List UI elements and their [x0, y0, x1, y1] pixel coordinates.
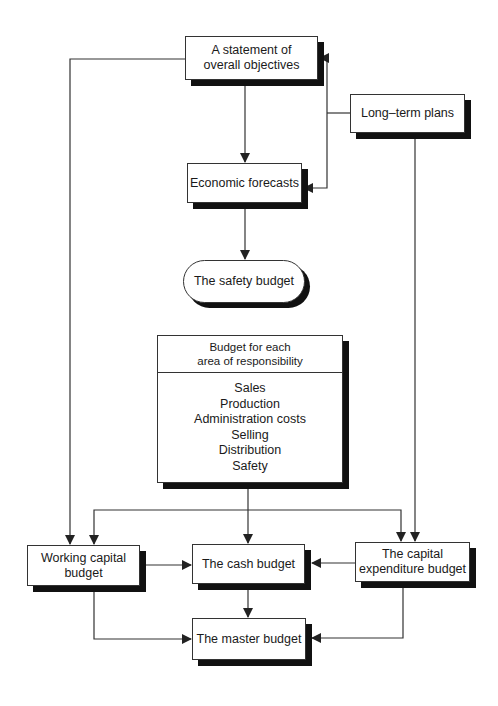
node-safety-budget: The safety budget: [183, 260, 305, 303]
list-item: Safety: [194, 459, 306, 475]
node-label: The cash budget: [202, 557, 295, 572]
edge-longterm-statement: [320, 58, 327, 113]
responsibility-list: Sales Production Administration costs Se…: [194, 373, 306, 474]
node-label: The master budget: [197, 632, 302, 647]
node-label: overall objectives: [204, 58, 300, 73]
node-label: Economic forecasts: [190, 176, 299, 191]
edge-resp-capex: [248, 510, 401, 541]
list-item: Administration costs: [194, 412, 306, 428]
node-economic-forecasts: Economic forecasts: [187, 163, 302, 203]
node-label: A statement of: [212, 43, 292, 58]
node-label: Long–term plans: [361, 106, 454, 121]
edge-longterm-economic: [304, 113, 327, 188]
list-item: Selling: [194, 428, 306, 444]
node-statement-of-objectives: A statement of overall objectives: [185, 36, 318, 80]
node-master-budget: The master budget: [192, 618, 306, 660]
node-header: Budget for each area of responsibility: [158, 336, 342, 373]
list-item: Sales: [194, 381, 306, 397]
node-working-capital-budget: Working capital budget: [27, 545, 140, 586]
list-item: Distribution: [194, 443, 306, 459]
edge-working-master: [94, 592, 191, 639]
edge-resp-working: [94, 510, 248, 544]
node-header-label: Budget for each: [158, 340, 342, 354]
node-label: The capital: [382, 547, 443, 562]
node-responsibility-budgets: Budget for each area of responsibility S…: [157, 335, 343, 483]
node-label: Working capital: [41, 551, 126, 566]
node-label: expenditure budget: [359, 562, 466, 577]
node-cash-budget: The cash budget: [192, 544, 305, 584]
node-capital-expenditure-budget: The capital expenditure budget: [355, 542, 470, 582]
node-label: budget: [64, 566, 102, 581]
node-label: The safety budget: [194, 274, 294, 289]
list-item: Production: [194, 397, 306, 413]
node-header-label: area of responsibility: [158, 354, 342, 368]
node-long-term-plans: Long–term plans: [350, 94, 465, 133]
edge-capex-master: [312, 588, 403, 638]
